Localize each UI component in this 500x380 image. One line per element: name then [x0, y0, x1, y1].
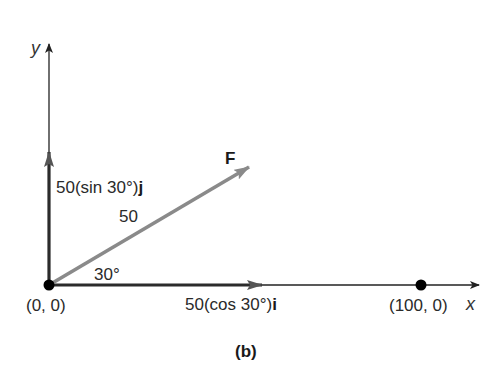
- origin-label: (0, 0): [26, 296, 66, 315]
- magnitude-label: 50: [119, 207, 138, 226]
- point-100-0-label: (100, 0): [389, 296, 448, 315]
- origin-point: [44, 280, 55, 291]
- point-100-0: [416, 280, 427, 291]
- x-axis-label: x: [465, 294, 476, 314]
- force-diagram: y x F 50 30° 50(sin 30°)j 50(cos 30°)i (…: [0, 0, 500, 380]
- y-axis-label: y: [29, 38, 41, 58]
- angle-label: 30°: [94, 265, 120, 284]
- figure-caption: (b): [235, 342, 257, 361]
- horizontal-component-prefix: 50(cos 30°): [185, 295, 272, 314]
- unit-vector-i: i: [272, 295, 277, 314]
- unit-vector-j: j: [137, 178, 143, 197]
- force-label: F: [225, 149, 235, 168]
- vertical-component-prefix: 50(sin 30°): [56, 178, 138, 197]
- vertical-component-label: 50(sin 30°)j: [56, 178, 143, 197]
- horizontal-component-label: 50(cos 30°)i: [185, 295, 277, 314]
